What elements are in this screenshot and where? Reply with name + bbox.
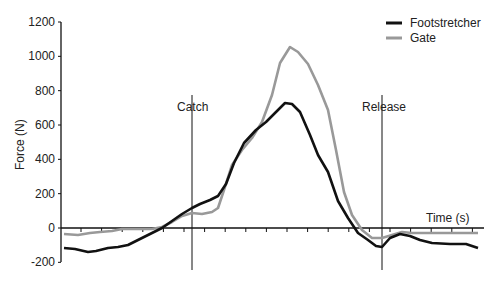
catch-label: Catch (177, 100, 208, 114)
y-tick-label: 0 (48, 221, 55, 235)
legend: Footstretcher Gate (386, 16, 481, 45)
x-axis-label: Time (s) (426, 211, 470, 225)
y-tick-label: 800 (35, 84, 55, 98)
y-axis-label: Force (N) (13, 119, 27, 170)
y-tick-label: 200 (35, 187, 55, 201)
y-tick-label: 1200 (28, 15, 55, 29)
release-label: Release (362, 100, 406, 114)
legend-label-footstretcher: Footstretcher (410, 16, 481, 30)
gate-line (64, 47, 478, 238)
legend-label-gate: Gate (410, 31, 436, 45)
force-time-chart: -200020040060080010001200 Force (N) Time… (0, 0, 496, 284)
y-tick-label: -200 (31, 255, 55, 269)
y-tick-label: 400 (35, 152, 55, 166)
y-tick-label: 600 (35, 118, 55, 132)
y-axis: -200020040060080010001200 (28, 15, 61, 269)
y-tick-label: 1000 (28, 49, 55, 63)
